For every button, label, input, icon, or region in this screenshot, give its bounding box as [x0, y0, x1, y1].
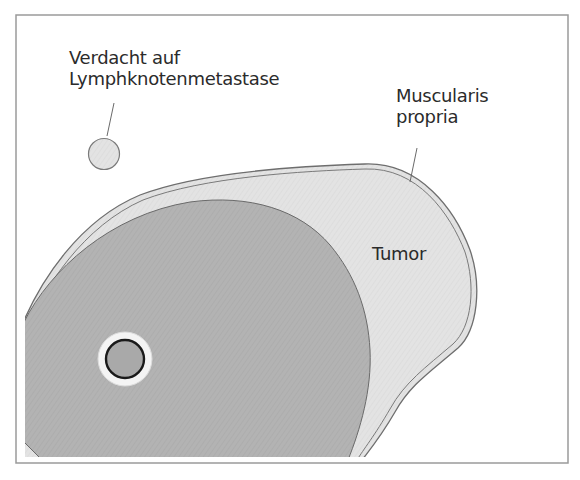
lymph-node-icon	[89, 139, 120, 170]
lumen-icon	[106, 340, 144, 378]
lymph-node-label: Verdacht auf Lymphknotenmetastase	[69, 47, 279, 89]
muscularis-label-line1: Muscularis	[396, 85, 488, 106]
tumor-label: Tumor	[372, 243, 426, 264]
lymph-node-label-line2: Lymphknotenmetastase	[69, 68, 279, 89]
lymph-node-label-line1: Verdacht auf	[69, 47, 279, 68]
muscularis-label: Muscularis propria	[396, 85, 488, 127]
muscularis-label-line2: propria	[396, 106, 488, 127]
